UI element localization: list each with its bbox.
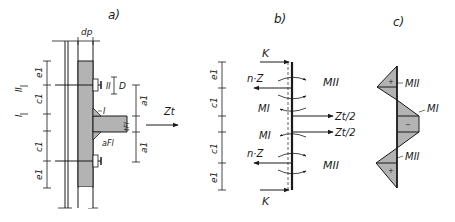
section-mark-II: II [15,87,24,92]
dim-c1-bottom: c1 [34,141,44,152]
panel-a-title: a) [108,8,120,22]
Zt-half-label-bottom: Zt/2 [334,127,356,138]
weld-bottom [93,132,101,140]
sign-top: + [388,78,394,86]
connection-diagram: a) dp [0,0,455,222]
flange-thickness-label: tFl [123,122,131,131]
panel-a: a) dp [15,8,178,208]
dim-e1-top: e1 [34,67,44,78]
dim-c1-top: c1 [34,93,44,104]
panel-c: c) + − + MII MI MII [376,15,439,188]
sign-middle: − [405,121,411,129]
dim-a1-bottom: a1 [139,142,149,153]
Zt-half-label-top: Zt/2 [334,111,356,122]
MI-label-bottom: MI [259,130,271,141]
tension-force-label: Zt [163,106,176,117]
K-label-bottom: K [262,195,270,208]
panel-c-title: c) [393,15,404,29]
flange-label: I [103,107,106,116]
c-MII-bottom: MII [405,151,420,162]
MII-label-bottom: MII [323,159,339,172]
panel-b-title: b) [274,12,286,26]
MII-label-top: MII [323,76,339,89]
weld-top [93,108,101,116]
end-plate [78,61,93,187]
bolt-row-label: II [106,82,111,91]
weld-label: aFl [102,139,115,148]
K-label-top: K [262,47,270,60]
dim-a1-top: a1 [139,95,149,106]
nZ-label-bottom: n·Z [247,148,265,159]
section-mark-I: I [15,114,24,117]
MI-label-top: MI [258,103,270,114]
moment-diagram-top [377,66,397,100]
nZ-label-top: n·Z [247,73,265,84]
c-MI: MI [427,103,439,114]
dim-b-e1-top: e1 [209,69,219,80]
panel-b: b) e1 c1 c1 e1 K K n·Z n·Z MI MI [209,12,356,208]
dim-D-label: D [119,81,126,91]
dim-b-c1-bottom: c1 [209,143,219,154]
sign-bottom: + [388,167,394,175]
dim-dp-label: dp [81,27,93,37]
c-MII-top: MII [405,78,420,89]
dim-b-c1-top: c1 [209,97,219,108]
beam-flange [93,116,127,132]
dim-b-e1-bottom: e1 [209,172,219,183]
dim-e1-bottom: e1 [34,169,44,180]
